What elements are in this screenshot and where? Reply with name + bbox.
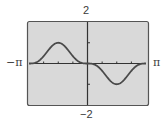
plot-area xyxy=(0,0,165,124)
